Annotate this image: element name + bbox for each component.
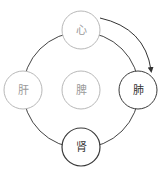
node-spleen[interactable]: 脾: [62, 71, 100, 109]
node-spleen-label: 脾: [76, 83, 87, 97]
five-organs-diagram: 心 肝 脾 肺 肾: [0, 0, 162, 178]
node-lung[interactable]: 肺: [119, 71, 157, 109]
node-kidney-label: 肾: [76, 141, 87, 154]
node-lung-label: 肺: [133, 84, 144, 97]
node-liver[interactable]: 肝: [4, 71, 42, 109]
node-kidney[interactable]: 肾: [62, 128, 100, 166]
node-heart[interactable]: 心: [62, 11, 100, 49]
node-liver-label: 肝: [18, 84, 29, 97]
node-heart-label: 心: [76, 24, 87, 37]
arrow-heart-to-lung: [100, 18, 151, 70]
